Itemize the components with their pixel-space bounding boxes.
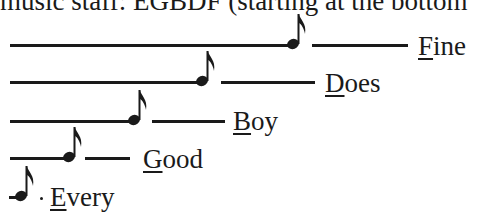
word-initial: G xyxy=(143,144,163,174)
staff-line xyxy=(10,44,289,47)
staff-line xyxy=(312,44,408,47)
staff-line xyxy=(221,81,315,84)
eighth-note-icon xyxy=(127,88,149,126)
word-rest: oy xyxy=(251,106,278,136)
word-rest: ood xyxy=(163,144,204,174)
word-rest: ine xyxy=(433,31,466,61)
mnemonic-word: Good xyxy=(143,146,203,173)
eighth-note-icon xyxy=(286,12,308,50)
mnemonic-word: Does xyxy=(325,70,381,97)
dot-separator xyxy=(40,197,43,200)
eighth-note-icon xyxy=(14,164,36,202)
staff-line xyxy=(10,81,197,84)
word-initial: E xyxy=(50,182,67,212)
staff-line xyxy=(152,120,225,123)
staff-line xyxy=(85,157,130,160)
staff-line xyxy=(10,120,129,123)
word-initial: D xyxy=(325,68,345,98)
mnemonic-word: Fine xyxy=(418,33,466,60)
word-rest: very xyxy=(67,182,115,212)
staff-line xyxy=(10,157,66,160)
eighth-note-icon xyxy=(62,125,84,163)
word-rest: oes xyxy=(345,68,381,98)
caption-text: music staff: EGBDF (starting at the bott… xyxy=(0,0,467,15)
mnemonic-word: Boy xyxy=(233,108,278,135)
eighth-note-icon xyxy=(195,49,217,87)
word-initial: F xyxy=(418,31,433,61)
mnemonic-word: Every xyxy=(50,184,114,211)
word-initial: B xyxy=(233,106,251,136)
